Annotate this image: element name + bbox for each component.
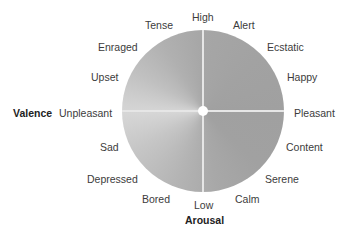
origin-dot <box>198 106 208 116</box>
arousal-axis-title: Arousal <box>185 214 224 226</box>
emotion-enraged-label: Enraged <box>98 41 138 53</box>
valence-axis-title: Valence <box>13 107 52 119</box>
emotion-depressed-label: Depressed <box>87 173 138 185</box>
emotion-calm-label: Calm <box>235 193 260 205</box>
emotion-happy-label: Happy <box>287 71 317 83</box>
emotion-content-label: Content <box>286 141 323 153</box>
emotion-tense-label: Tense <box>145 19 173 31</box>
valence-unpleasant-label: Unpleasant <box>59 107 112 119</box>
valence-pleasant-label: Pleasant <box>294 107 335 119</box>
arousal-low-label: Low <box>194 199 213 211</box>
arousal-high-label: High <box>192 11 214 23</box>
emotion-bored-label: Bored <box>142 193 170 205</box>
emotion-alert-label: Alert <box>233 19 255 31</box>
emotion-upset-label: Upset <box>91 71 118 83</box>
emotion-sad-label: Sad <box>100 141 119 153</box>
affect-circle <box>122 30 284 192</box>
emotion-serene-label: Serene <box>265 173 299 185</box>
emotion-ecstatic-label: Ecstatic <box>267 41 304 53</box>
